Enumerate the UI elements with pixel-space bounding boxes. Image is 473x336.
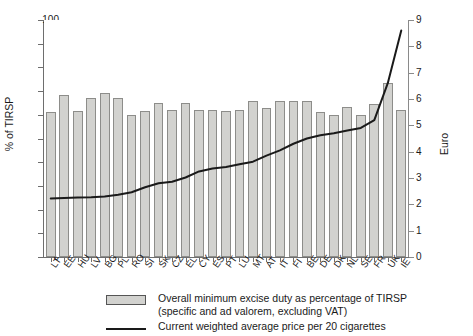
y-tick-mark-left	[38, 115, 43, 116]
legend-item-bar: Overall minimum excise duty as percentag…	[0, 292, 473, 317]
line-series	[44, 20, 408, 257]
y-tick-mark-left	[38, 233, 43, 234]
legend-item-line: Current weighted average price per 20 ci…	[0, 320, 473, 333]
y-tick-mark-left	[38, 210, 43, 211]
y-tick-mark-left	[38, 186, 43, 187]
legend-bar-line1: Overall minimum excise duty as percentag…	[158, 292, 407, 305]
y-tick-mark-right	[409, 152, 414, 153]
y-tick-mark-left	[38, 44, 43, 45]
y-tick-mark-left	[38, 91, 43, 92]
price-line	[51, 31, 402, 199]
y-tick-mark-left	[38, 67, 43, 68]
y-tick-mark-right	[409, 125, 414, 126]
chart-legend: Overall minimum excise duty as percentag…	[0, 292, 473, 336]
y-tick-label-right: 8	[416, 41, 422, 51]
y-tick-mark-right	[409, 178, 414, 179]
y-tick-label-right: 3	[416, 173, 422, 183]
x-tick-label: SI	[143, 257, 156, 270]
legend-swatch-bar	[103, 292, 149, 305]
line-swatch-icon	[106, 328, 146, 330]
x-tick-label: IE	[399, 257, 412, 270]
y-tick-mark-left	[38, 20, 43, 21]
y-tick-mark-right	[409, 231, 414, 232]
y-tick-mark-right	[409, 73, 414, 74]
y-tick-label-right: 0	[416, 252, 422, 262]
y-tick-label-right: 7	[416, 68, 422, 78]
y-tick-label-right: 5	[416, 120, 422, 130]
y-tick-mark-left	[38, 257, 43, 258]
legend-swatch-line	[103, 320, 149, 330]
y-tick-mark-left	[38, 162, 43, 163]
chart-container: % of TIRSP Euro 0102030405060708090100 0…	[0, 0, 473, 336]
bar-swatch-icon	[106, 295, 146, 305]
y-axis-right-spine	[408, 20, 409, 258]
legend-line-label: Current weighted average price per 20 ci…	[149, 320, 386, 333]
x-tick-label: IT	[278, 257, 291, 270]
y-tick-mark-right	[409, 99, 414, 100]
y-tick-label-right: 4	[416, 147, 422, 157]
y-tick-label-right: 1	[416, 226, 422, 236]
y-tick-label-right: 6	[416, 94, 422, 104]
y-tick-mark-right	[409, 257, 414, 258]
legend-bar-line2: (specific and ad valorem, excluding VAT)	[158, 305, 407, 318]
y-tick-mark-right	[409, 204, 414, 205]
x-tick-label: FI	[291, 257, 304, 270]
y-tick-label-right: 2	[416, 199, 422, 209]
y-tick-label-right: 9	[416, 15, 422, 25]
y-tick-mark-right	[409, 46, 414, 47]
y-tick-mark-left	[38, 139, 43, 140]
y-axis-label-right: Euro	[438, 124, 450, 164]
y-axis-label-left: % of TIRSP	[3, 84, 15, 164]
y-tick-mark-right	[409, 20, 414, 21]
